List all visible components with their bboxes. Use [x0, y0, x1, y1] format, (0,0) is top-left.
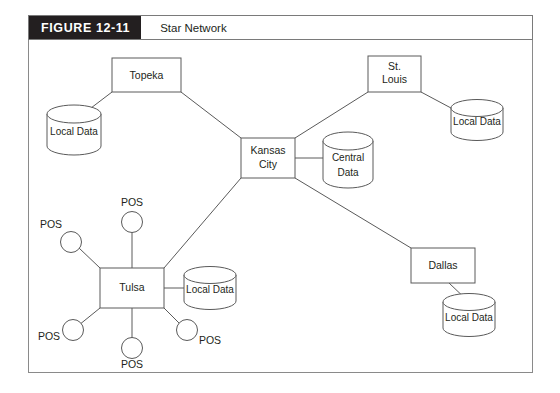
- node-label-line1: Kansas: [250, 144, 285, 156]
- pos-terminal-icon[interactable]: [61, 232, 82, 253]
- pos-terminal-tulsa-pos-top[interactable]: POS: [121, 196, 143, 233]
- database-label: Local Data: [50, 126, 98, 137]
- pos-terminal-label: POS: [38, 330, 60, 342]
- link-tulsa-pos-lower-right: [164, 308, 181, 325]
- cylinder-top-icon: [443, 294, 495, 311]
- node-dallas[interactable]: Dallas: [411, 248, 475, 283]
- cylinder-top-icon: [47, 105, 101, 123]
- database-tulsa-local-data: Local Data: [184, 267, 236, 310]
- database-central-data: Central Data: [323, 132, 373, 188]
- node-label-line1: St.: [388, 60, 401, 72]
- database-label: Local Data: [445, 312, 493, 323]
- database-stlouis-local-data: Local Data: [451, 100, 503, 141]
- cylinder-top-icon: [184, 267, 236, 284]
- pos-terminal-icon[interactable]: [122, 212, 143, 233]
- node-topeka[interactable]: Topeka: [112, 58, 181, 92]
- node-st-louis[interactable]: St. Louis: [368, 56, 421, 92]
- cylinder-top-icon: [323, 132, 373, 150]
- link-kansascity-topeka: [181, 92, 241, 138]
- node-label: Tulsa: [119, 281, 144, 293]
- pos-terminal-label: POS: [121, 358, 143, 370]
- figure-container: FIGURE 12-11 Star Network: [0, 0, 560, 393]
- node-kansas-city[interactable]: Kansas City: [241, 138, 295, 178]
- node-label: Topeka: [130, 69, 164, 81]
- star-network-diagram: Local Data Topeka Local Data St. Louis: [29, 40, 534, 373]
- link-kansascity-dallas: [295, 178, 411, 248]
- database-label: Local Data: [453, 116, 501, 127]
- node-label: Dallas: [428, 259, 457, 271]
- pos-terminal-tulsa-pos-lower-left[interactable]: POS: [38, 320, 84, 342]
- link-stlouis-localdata: [421, 92, 451, 108]
- pos-terminal-label: POS: [121, 196, 143, 208]
- pos-terminal-icon[interactable]: [63, 320, 84, 341]
- figure-title-label: Star Network: [141, 16, 532, 39]
- figure-header: FIGURE 12-11 Star Network: [28, 15, 533, 40]
- database-label: Local Data: [186, 284, 234, 295]
- pos-terminal-icon[interactable]: [122, 338, 143, 359]
- node-label-line2: City: [259, 158, 278, 170]
- node-tulsa[interactable]: Tulsa: [100, 268, 164, 308]
- pos-terminal-tulsa-pos-upper-left[interactable]: POS: [40, 218, 82, 253]
- link-tulsa-pos-lower-left: [79, 308, 100, 325]
- pos-terminal-icon[interactable]: [177, 320, 198, 341]
- figure-number-label: FIGURE 12-11: [29, 16, 141, 39]
- database-label-line1: Central: [332, 152, 364, 163]
- link-tulsa-pos-upper-left: [79, 248, 100, 268]
- node-label-line2: Louis: [382, 73, 407, 85]
- link-topeka-localdata: [91, 92, 112, 108]
- link-kansascity-stlouis: [295, 92, 368, 138]
- database-label-line2: Data: [337, 167, 359, 178]
- pos-terminal-label: POS: [199, 334, 221, 346]
- pos-terminal-label: POS: [40, 218, 62, 230]
- database-topeka-local-data: Local Data: [47, 105, 101, 155]
- cylinder-top-icon: [451, 100, 503, 117]
- pos-terminal-tulsa-pos-lower-right[interactable]: POS: [177, 320, 222, 346]
- pos-terminal-tulsa-pos-bottom[interactable]: POS: [121, 338, 143, 370]
- link-kansascity-tulsa: [164, 178, 241, 268]
- diagram-frame: Local Data Topeka Local Data St. Louis: [28, 40, 533, 373]
- database-dallas-local-data: Local Data: [443, 294, 495, 337]
